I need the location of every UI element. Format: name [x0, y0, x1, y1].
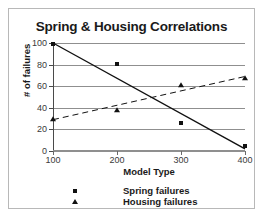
data-point: [243, 144, 247, 148]
trendline-square: [53, 43, 245, 149]
data-point: [179, 121, 183, 125]
data-point: [242, 75, 248, 80]
plot-area: 020406080100 100200300400: [53, 43, 245, 151]
trendlines: [53, 43, 245, 151]
data-point: [178, 82, 184, 87]
data-point: [114, 107, 120, 112]
y-axis-title: # of failures: [21, 44, 32, 97]
legend-marker-triangle-icon: [69, 196, 83, 207]
y-tick-label: 60: [37, 81, 47, 91]
legend-item: Spring failures: [69, 185, 219, 196]
square-icon: [73, 189, 77, 193]
gridline: [53, 151, 245, 152]
data-point: [115, 62, 119, 66]
x-axis-title: Model Type: [53, 166, 245, 177]
x-tick-label: 100: [45, 155, 60, 165]
legend-item: Housing failures: [69, 196, 219, 207]
y-tick-label: 20: [37, 124, 47, 134]
legend-label: Housing failures: [123, 196, 197, 207]
trendline-triangle: [53, 76, 245, 119]
legend-marker-square-icon: [69, 185, 83, 196]
x-tick-label: 300: [173, 155, 188, 165]
x-tick-label: 200: [109, 155, 124, 165]
legend-label: Spring failures: [123, 185, 190, 196]
y-tick-label: 80: [37, 60, 47, 70]
chart-frame: Spring & Housing Correlations # of failu…: [8, 8, 255, 209]
y-tick-label: 100: [32, 38, 47, 48]
chart-legend: Spring failuresHousing failures: [69, 185, 219, 207]
y-tick-label: 40: [37, 103, 47, 113]
triangle-icon: [72, 199, 78, 204]
chart-title: Spring & Housing Correlations: [9, 19, 254, 34]
data-point: [51, 42, 55, 46]
data-point: [50, 116, 56, 121]
x-tick-label: 400: [237, 155, 252, 165]
